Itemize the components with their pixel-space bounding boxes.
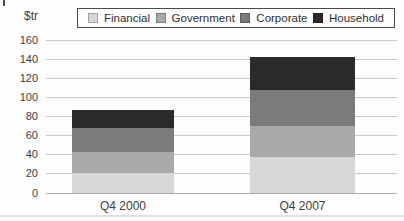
y-tick-label-60: 60 [0,129,38,141]
segment-government-2 [250,126,355,157]
legend-swatch-corporate [240,13,250,23]
segment-government-1 [72,152,174,173]
legend-label-government: Government [172,12,235,24]
y-tick-label-20: 20 [0,167,38,179]
bar-q4-2007 [250,0,355,221]
x-tick-label-q4-2000: Q4 2000 [72,199,174,213]
y-tick-label-160: 160 [0,34,38,46]
bar-q4-2000 [72,0,174,221]
segment-household-1 [72,110,174,128]
y-tick-label-0: 0 [0,187,38,199]
segment-household-2 [250,57,355,89]
y-axis-unit-label: $tr [0,9,38,23]
y-tick-label-140: 140 [0,53,38,65]
y-tick-label-80: 80 [0,110,38,122]
stacked-bar-chart-figure: $tr FinancialGovernmentCorporateHousehol… [0,0,404,221]
segment-corporate-2 [250,90,355,126]
bottom-divider [0,215,404,217]
segment-financial-2 [250,157,355,192]
segment-financial-1 [72,173,174,192]
y-tick-label-120: 120 [0,72,38,84]
x-tick-label-q4-2007: Q4 2007 [250,199,355,213]
y-tick-label-40: 40 [0,148,38,160]
crop-artifact-mark [3,0,5,6]
segment-corporate-1 [72,128,174,153]
y-tick-label-100: 100 [0,91,38,103]
